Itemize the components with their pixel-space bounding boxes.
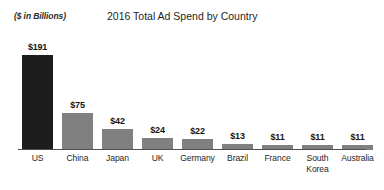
bar-value-label: $191 <box>13 42 62 52</box>
bar-group[interactable]: $191 <box>22 31 53 150</box>
bar-group[interactable]: $22 <box>182 31 213 150</box>
category-label: Australia <box>333 153 382 164</box>
category-label-line: Korea <box>293 164 342 175</box>
bar-chart: ($ in Billions) 2016 Total Ad Spend by C… <box>0 0 384 190</box>
chart-header: ($ in Billions) 2016 Total Ad Spend by C… <box>0 0 384 30</box>
bars-layer: $191$75$42$24$22$13$11$11$11 <box>0 30 384 150</box>
bar-rect[interactable] <box>22 55 53 150</box>
bar-group[interactable]: $11 <box>302 31 333 150</box>
bar-group[interactable]: $13 <box>222 31 253 150</box>
category-labels: USChinaJapanUKGermanyBrazilFranceSouthKo… <box>0 153 384 190</box>
category-label-line: Australia <box>333 153 382 164</box>
bar-value-label: $75 <box>53 100 102 110</box>
bar-group[interactable]: $75 <box>62 31 93 150</box>
x-axis-line <box>18 149 366 150</box>
axis-unit-label: ($ in Billions) <box>14 11 66 21</box>
bar-rect[interactable] <box>62 113 93 150</box>
bar-value-label: $11 <box>333 132 382 142</box>
bar-group[interactable]: $24 <box>142 31 173 150</box>
chart-title: 2016 Total Ad Spend by Country <box>107 10 257 22</box>
bar-group[interactable]: $11 <box>262 31 293 150</box>
bar-group[interactable]: $11 <box>342 31 373 150</box>
bar-rect[interactable] <box>102 129 133 150</box>
plot-area: $191$75$42$24$22$13$11$11$11 USChinaJapa… <box>0 30 384 190</box>
bar-group[interactable]: $42 <box>102 31 133 150</box>
